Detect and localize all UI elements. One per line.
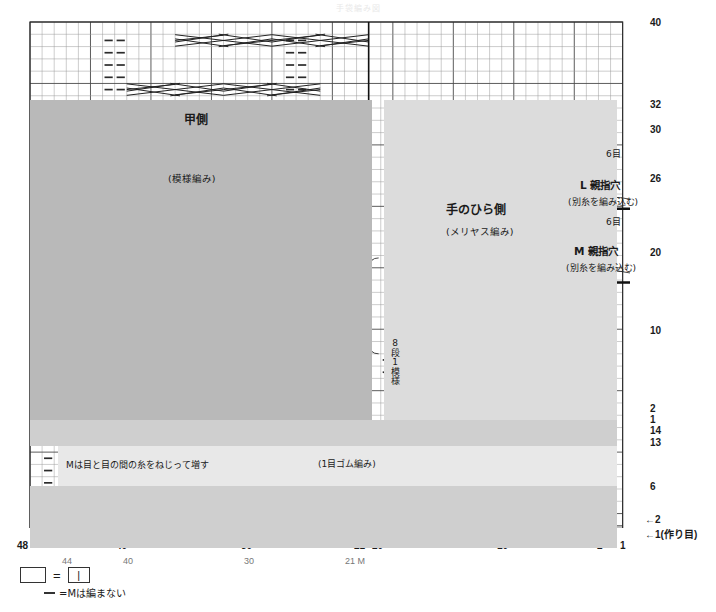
thumb-l-sublabel: (別糸を編み込む) [568, 198, 638, 207]
row-label-26: 26 [650, 173, 661, 184]
legend-equals: = [53, 568, 61, 583]
thumb-l-width: 6目 [606, 150, 621, 159]
thumb-l-label: L 親指穴 [580, 180, 620, 191]
col-label-1: 1 [620, 540, 626, 551]
row-label-20: 20 [650, 247, 661, 258]
thumb-m-label: M 親指穴 [574, 246, 618, 257]
rib-note: (1目ゴム編み) [318, 460, 376, 469]
annotation-layer: 甲側 (模様編み) 手のひら側 (メリヤス編み) 6目 L 親指穴 (別糸を編み… [18, 18, 630, 528]
col-label-48: 48 [17, 540, 28, 551]
row-label-1: 1 [650, 414, 656, 425]
knitting-chart: M 甲側 (模様編み) 手のひら側 (メリヤス編み) 6目 L 親指穴 (別糸を… [18, 18, 630, 528]
knit-stitch-icon: | [68, 567, 90, 583]
row-label-2: 2 [650, 403, 656, 414]
purl-dash-icon [42, 586, 56, 600]
repeat-label: 8段1模様 [390, 338, 399, 385]
legend-row-knit: = | [20, 565, 520, 585]
row-label-40: 40 [650, 17, 661, 28]
thumb-m-sublabel: (別糸を編み込む) [566, 264, 636, 273]
row-label-32: 32 [650, 99, 661, 110]
row-label-10: 10 [650, 325, 661, 336]
instep-sublabel: (模様編み) [168, 174, 215, 184]
palm-label: 手のひら側 [446, 204, 506, 216]
row-label-14: 14 [650, 425, 661, 436]
palm-sublabel: (メリヤス編み) [446, 227, 513, 237]
row-label-6: 6 [650, 481, 656, 492]
legend: = | =Mは編まない [20, 565, 520, 600]
increase-note: Mは目と目の間の糸をねじって増す [66, 461, 209, 470]
chart-top-title: 手袋編み図 [0, 2, 716, 13]
instep-label: 甲側 [184, 114, 208, 126]
legend-noknit-text: =Mは編まない [59, 585, 126, 600]
row-label-30: 30 [650, 124, 661, 135]
row-label-arrow-1: ←1(作り目) [645, 526, 697, 541]
blank-cell-icon [20, 567, 46, 583]
row-label-arrow-2: ←2 [645, 514, 661, 525]
thumb-m-width: 6目 [606, 218, 621, 227]
legend-row-noknit: =Mは編まない [42, 585, 520, 600]
row-label-13: 13 [650, 437, 661, 448]
